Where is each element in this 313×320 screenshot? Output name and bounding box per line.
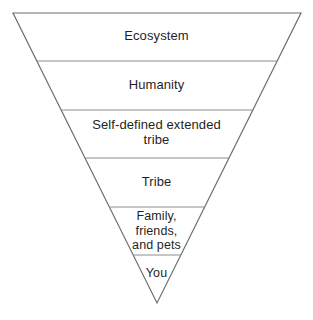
inverted-pyramid-diagram: Ecosystem Humanity Self-defined extended…	[0, 0, 313, 320]
pyramid-shape	[0, 0, 313, 320]
